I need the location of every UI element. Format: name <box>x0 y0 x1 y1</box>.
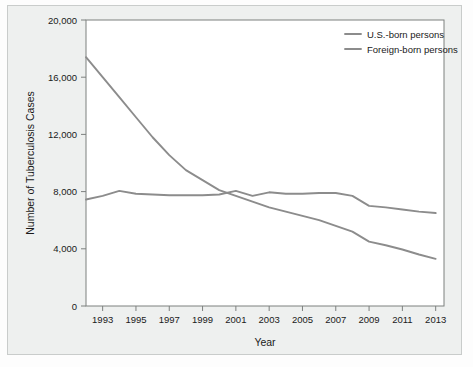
chart-figure: 04,0008,00012,00016,00020,00019931995199… <box>0 0 473 367</box>
plot-wrapper: 04,0008,00012,00016,00020,00019931995199… <box>0 0 473 367</box>
y-axis-tick-label: 12,000 <box>48 129 77 140</box>
x-axis-tick-label: 1995 <box>125 314 146 325</box>
y-axis-tick-label: 16,000 <box>48 72 77 83</box>
x-axis-tick-label: 2001 <box>225 314 246 325</box>
line-chart: 04,0008,00012,00016,00020,00019931995199… <box>0 0 473 367</box>
x-axis-tick-label: 2003 <box>259 314 280 325</box>
legend-label-us-born: U.S.-born persons <box>367 29 444 40</box>
x-axis-tick-label: 1999 <box>192 314 213 325</box>
x-axis-tick-label: 2011 <box>392 314 412 325</box>
legend-label-foreign-born: Foreign-born persons <box>367 44 458 55</box>
y-axis-tick-label: 0 <box>72 301 77 312</box>
x-axis-tick-label: 1993 <box>92 314 113 325</box>
x-axis-tick-label: 2005 <box>292 314 313 325</box>
y-axis-tick-label: 4,000 <box>53 243 77 254</box>
x-axis-title: Year <box>254 336 276 348</box>
x-axis-tick-label: 2013 <box>425 314 446 325</box>
x-axis-tick-label: 2007 <box>325 314 346 325</box>
plot-background <box>86 20 444 306</box>
y-axis-title: Number of Tuberculosis Cases <box>24 91 36 235</box>
y-axis-tick-label: 20,000 <box>48 15 77 26</box>
x-axis-tick-label: 2009 <box>358 314 379 325</box>
y-axis-tick-label: 8,000 <box>53 186 77 197</box>
x-axis-tick-label: 1997 <box>159 314 180 325</box>
